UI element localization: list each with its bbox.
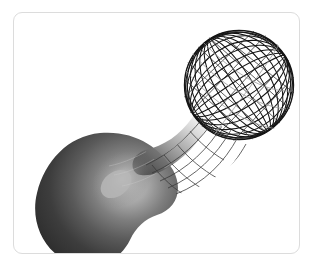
dumbbell-surface-plot (14, 13, 300, 254)
figure-root: Dumbbell surface of revolution (0, 0, 316, 266)
figure-frame: Dumbbell surface of revolution (13, 12, 300, 254)
figure-canvas: Dumbbell surface of revolution (14, 13, 299, 253)
